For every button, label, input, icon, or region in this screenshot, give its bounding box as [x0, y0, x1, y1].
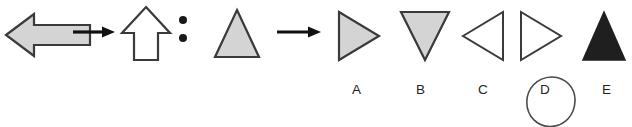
option-shape-b[interactable]: [398, 9, 452, 63]
analogy-puzzle-canvas: A B C D E: [0, 0, 632, 127]
option-label-e-text: E: [602, 83, 611, 97]
option-shape-e[interactable]: [580, 9, 628, 63]
option-shape-d[interactable]: [518, 9, 564, 63]
up-block-arrow-icon: [120, 5, 172, 63]
option-label-c-text: C: [478, 83, 488, 97]
selected-answer-circle-marker: [524, 74, 578, 127]
colon-dot-lower: [179, 34, 187, 42]
option-label-b-text: B: [416, 83, 425, 97]
option-shape-c[interactable]: [460, 9, 506, 63]
up-triangle-icon: [212, 8, 262, 60]
right-arrow-connector-icon: [72, 24, 118, 40]
colon-separator-icon: [178, 16, 190, 52]
option-shape-a[interactable]: [336, 9, 382, 63]
option-label-a-text: A: [352, 83, 361, 97]
right-arrow-connector-icon-2: [276, 24, 324, 40]
colon-dot-upper: [179, 16, 187, 24]
